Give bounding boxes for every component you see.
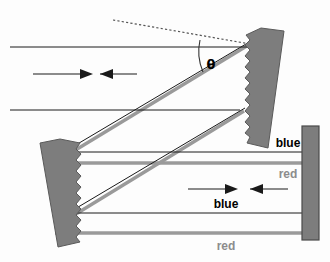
diagram-canvas: θ blue red blue red [0,0,330,262]
output-coupler-mirror[interactable] [302,126,319,240]
angle-label: θ [207,57,216,72]
blue-beam-label-upper: blue [276,136,301,150]
blue-beam-label-lower: blue [214,197,239,211]
optics-diagram-figure: θ blue red blue red [0,0,330,262]
red-beam-label-upper: red [279,167,298,181]
red-beam-label-lower: red [217,239,236,253]
